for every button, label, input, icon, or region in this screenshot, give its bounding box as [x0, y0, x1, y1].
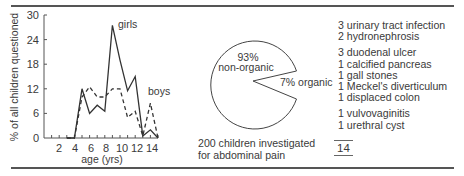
girls-series-line: [67, 25, 158, 138]
cause-item: 2 hydronephrosis: [338, 31, 447, 42]
organic-causes-list: 3 urinary tract infection 2 hydronephros…: [338, 20, 447, 136]
svg-text:12: 12: [27, 83, 39, 95]
svg-text:4: 4: [72, 142, 78, 154]
cause-item: 1 vulvovaginitis: [338, 108, 447, 119]
y-axis-label: % of all children questioned: [8, 13, 20, 142]
svg-text:0: 0: [33, 132, 39, 144]
svg-text:14: 14: [146, 142, 158, 154]
causes-group-urinary: 3 urinary tract infection 2 hydronephros…: [338, 20, 447, 42]
caption-line-2: for abdominal pain: [198, 150, 315, 162]
y-tick-labels: 0 6 12 18 24 30: [27, 9, 39, 144]
pie-big-label: non-organic: [218, 61, 273, 73]
svg-text:24: 24: [27, 34, 39, 46]
pie-small-label: 7% organic: [280, 76, 333, 88]
causes-group-genital: 1 vulvovaginitis 1 urethral cyst: [338, 108, 447, 130]
svg-text:30: 30: [27, 9, 39, 21]
cause-item: 1 urethral cyst: [338, 120, 447, 131]
cause-item: 3 duodenal ulcer: [338, 47, 447, 58]
cause-item: 1 displaced colon: [338, 92, 447, 103]
causes-total: 14: [334, 140, 353, 156]
svg-text:6: 6: [33, 107, 39, 119]
girls-label: girls: [118, 18, 137, 30]
caption-line-1: 200 children investigated: [198, 138, 315, 150]
x-axis-label: age (yrs): [81, 153, 122, 165]
boys-label: boys: [148, 85, 170, 97]
svg-text:12: 12: [131, 142, 143, 154]
y-axis: [44, 15, 47, 138]
svg-text:2: 2: [56, 142, 62, 154]
causes-group-gastro: 3 duodenal ulcer 1 calcified pancreas 1 …: [338, 47, 447, 103]
svg-text:18: 18: [27, 58, 39, 70]
pie-caption: 200 children investigated for abdominal …: [198, 138, 315, 161]
x-axis: [44, 135, 158, 138]
